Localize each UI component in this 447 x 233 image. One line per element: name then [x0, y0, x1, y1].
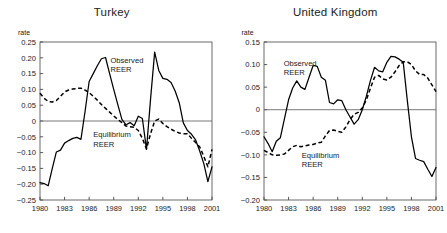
plot-area-turkey: 0.250.200.150.100.050−0.05−0.10−0.15−0.2… [0, 0, 224, 233]
y-tick-label: 0.10 [245, 60, 260, 69]
y-tick-label: −0.05 [17, 133, 36, 142]
y-tick-label: 0.05 [245, 83, 260, 92]
plot-area-uk: 0.150.100.050−0.05−0.10−0.15−0.201980198… [224, 0, 447, 233]
y-tick-label: −0.15 [240, 173, 259, 182]
x-tick-label: 1983 [280, 204, 296, 213]
y-tick-label: 0.10 [21, 85, 36, 94]
x-tick-label: 1995 [155, 204, 171, 213]
x-tick-label: 1989 [105, 204, 121, 213]
y-tick-label: −0.05 [240, 128, 259, 137]
y-tick-label: 0.15 [245, 38, 260, 47]
x-tick-label: 2001 [204, 204, 220, 213]
x-tick-label: 1992 [354, 204, 370, 213]
chart-annotation: REER [301, 160, 323, 169]
y-tick-label: 0.15 [21, 69, 36, 78]
y-tick-label: −0.15 [17, 164, 36, 173]
x-tick-label: 1980 [32, 204, 48, 213]
chart-annotation: Observed [283, 59, 316, 68]
y-tick-label: 0 [32, 117, 36, 126]
x-tick-label: 1995 [378, 204, 394, 213]
chart-annotation: Observed [110, 56, 143, 65]
chart-annotation: REER [110, 65, 132, 74]
y-tick-label: −0.10 [17, 148, 36, 157]
x-tick-label: 1992 [130, 204, 146, 213]
y-tick-label: 0 [255, 105, 259, 114]
chart-annotation: Equilibrium [301, 151, 339, 160]
chart-annotation: REER [283, 68, 305, 77]
x-tick-label: 2001 [427, 204, 443, 213]
chart-panel-turkey: Turkey rate 0.250.200.150.100.050−0.05−0… [0, 0, 224, 233]
x-tick-label: 1986 [81, 204, 97, 213]
x-tick-label: 1983 [56, 204, 72, 213]
y-tick-label: 0.05 [21, 101, 36, 110]
y-tick-label: 0.20 [21, 54, 36, 63]
chart-panel-uk: United Kingdom rate 0.150.100.050−0.05−0… [224, 0, 447, 233]
x-tick-label: 1989 [329, 204, 345, 213]
x-tick-label: 1998 [179, 204, 195, 213]
chart-annotation: Equilibrium [93, 130, 131, 139]
y-tick-label: −0.10 [240, 151, 259, 160]
y-tick-label: −0.20 [17, 180, 36, 189]
x-tick-label: 1986 [304, 204, 320, 213]
x-tick-label: 1980 [255, 204, 271, 213]
y-tick-label: 0.25 [21, 38, 36, 47]
x-tick-label: 1998 [403, 204, 419, 213]
figure-two-panel-reer-charts: Turkey rate 0.250.200.150.100.050−0.05−0… [0, 0, 447, 233]
chart-annotation: REER [93, 140, 115, 149]
